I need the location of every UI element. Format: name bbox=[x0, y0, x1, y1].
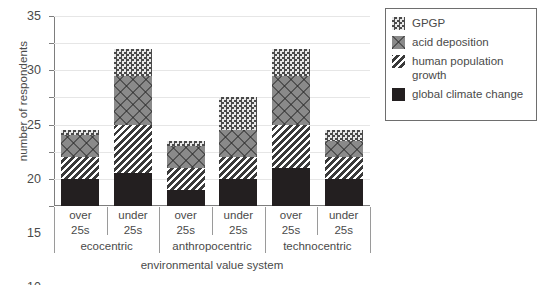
bar-segment bbox=[167, 190, 205, 206]
age-group-label: under25s bbox=[107, 208, 159, 238]
category-separator bbox=[317, 207, 318, 235]
age-group-label: over25s bbox=[265, 208, 317, 238]
y-axis-tick-label: 35 bbox=[27, 9, 41, 23]
bar-segment bbox=[114, 76, 152, 125]
legend-swatch-icon bbox=[392, 36, 405, 49]
bar-segment bbox=[61, 179, 99, 206]
legend-item: global climate change bbox=[392, 87, 531, 101]
legend-swatch-icon bbox=[392, 55, 405, 68]
legend-swatch-icon bbox=[392, 17, 405, 30]
plot-area: 05101520253035 bbox=[54, 16, 370, 206]
bar-segment bbox=[61, 130, 99, 135]
y-axis-title: number of respondents bbox=[17, 16, 29, 186]
bar-segment bbox=[114, 125, 152, 174]
category-separator bbox=[107, 207, 108, 235]
legend-item: human population growth bbox=[392, 54, 531, 82]
legend-item: acid deposition bbox=[392, 35, 531, 49]
legend-label: human population growth bbox=[412, 54, 531, 82]
age-group-label-line: 25s bbox=[54, 223, 106, 238]
legend-item: GPGP bbox=[392, 16, 531, 30]
y-axis-tick-label: 20 bbox=[27, 172, 41, 186]
age-group-label: over25s bbox=[160, 208, 212, 238]
y-axis-tick-label: 15 bbox=[27, 226, 41, 240]
bar-segment bbox=[61, 157, 99, 179]
value-system-group-label: technocentric bbox=[262, 240, 372, 252]
x-axis-title: environmental value system bbox=[54, 259, 370, 271]
chart-container: number of respondents 05101520253035 ove… bbox=[0, 0, 543, 285]
legend-label: GPGP bbox=[412, 16, 445, 30]
bar-segment bbox=[325, 157, 363, 179]
bar-segment bbox=[219, 130, 257, 157]
category-axis-labels: over25sunder25sover25sunder25sover25sund… bbox=[54, 207, 370, 263]
bar-segment bbox=[272, 49, 310, 76]
y-axis-tick-label: 10 bbox=[27, 280, 41, 285]
age-group-label-line: under bbox=[107, 208, 159, 223]
value-system-group-label: anthropocentric bbox=[157, 240, 267, 252]
age-group-label: under25s bbox=[212, 208, 264, 238]
age-group-label-line: under bbox=[318, 208, 370, 223]
bar-segment bbox=[61, 135, 99, 157]
age-group-label-line: 25s bbox=[265, 223, 317, 238]
y-axis-tick-label: 30 bbox=[27, 63, 41, 77]
chart-legend: GPGPacid depositionhuman population grow… bbox=[385, 8, 537, 121]
bar-segment bbox=[114, 49, 152, 76]
bar-segment bbox=[167, 168, 205, 190]
bar-segment bbox=[272, 125, 310, 168]
bar-segment bbox=[219, 179, 257, 206]
age-group-label-line: over bbox=[265, 208, 317, 223]
age-group-label: over25s bbox=[54, 208, 106, 238]
age-group-label-line: 25s bbox=[160, 223, 212, 238]
y-axis-tick-label: 25 bbox=[27, 118, 41, 132]
bar-segment bbox=[325, 179, 363, 206]
bar-segment bbox=[325, 130, 363, 141]
bar-segment bbox=[325, 141, 363, 157]
age-group-label-line: over bbox=[54, 208, 106, 223]
bars-layer bbox=[54, 16, 370, 206]
bar-segment bbox=[167, 146, 205, 168]
legend-swatch-icon bbox=[392, 88, 405, 101]
bar-segment bbox=[272, 76, 310, 125]
value-system-group-label: ecocentric bbox=[52, 240, 162, 252]
bar-segment bbox=[219, 97, 257, 130]
age-group-label-line: over bbox=[160, 208, 212, 223]
age-group-label: under25s bbox=[318, 208, 370, 238]
age-group-label-line: under bbox=[212, 208, 264, 223]
bar-segment bbox=[114, 173, 152, 206]
category-separator bbox=[212, 207, 213, 235]
bar-segment bbox=[219, 157, 257, 179]
bar-segment bbox=[272, 168, 310, 206]
bar-segment bbox=[167, 141, 205, 146]
age-group-label-line: 25s bbox=[318, 223, 370, 238]
legend-label: acid deposition bbox=[412, 35, 489, 49]
legend-label: global climate change bbox=[412, 87, 523, 101]
age-group-label-line: 25s bbox=[212, 223, 264, 238]
age-group-label-line: 25s bbox=[107, 223, 159, 238]
